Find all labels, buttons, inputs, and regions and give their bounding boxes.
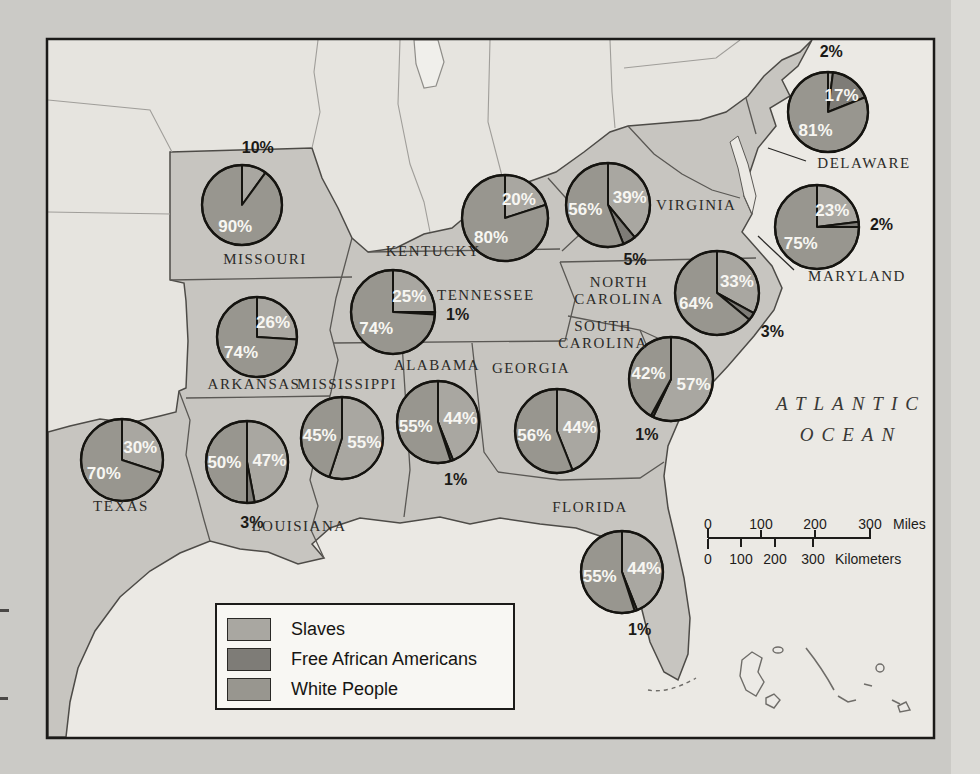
- ocean-label-line: OCEAN: [752, 419, 950, 450]
- scale-miles-0: 0: [688, 516, 728, 532]
- legend: Slaves Free African Americans White Peop…: [215, 603, 515, 710]
- ocean-label-line: ATLANTIC: [752, 388, 950, 419]
- state-label-line: CAROLINA: [557, 291, 681, 308]
- state-label-north-carolina: NORTH CAROLINA: [557, 274, 681, 308]
- pie-label: 17%: [824, 86, 858, 105]
- pie-label: 56%: [517, 426, 551, 445]
- pie-label: 64%: [679, 294, 713, 313]
- pie-label: 1%: [444, 471, 467, 488]
- pie-label: 70%: [87, 464, 121, 483]
- state-label-georgia: GEORGIA: [471, 360, 591, 377]
- pie-arkansas: 26%74%: [217, 297, 297, 377]
- pie-label: 25%: [392, 287, 426, 306]
- state-label-missouri: MISSOURI: [195, 251, 335, 268]
- pie-label: 75%: [784, 234, 818, 253]
- legend-item-white-people: White People: [227, 677, 398, 701]
- legend-label: Slaves: [291, 619, 345, 640]
- pie-label: 2%: [870, 216, 893, 233]
- state-label-virginia: VIRGINIA: [656, 197, 766, 214]
- pie-label: 20%: [502, 190, 536, 209]
- scale-miles-100: 100: [741, 516, 781, 532]
- pie-label: 5%: [623, 251, 646, 268]
- pie-label: 44%: [563, 418, 597, 437]
- state-label-south-carolina: SOUTH CAROLINA: [541, 318, 665, 352]
- scale-km-unit: Kilometers: [835, 551, 901, 567]
- pie-georgia: 44%56%: [515, 389, 599, 473]
- pie-label: 3%: [761, 323, 784, 340]
- pie-label: 1%: [635, 426, 658, 443]
- scale-km-200: 200: [755, 551, 795, 567]
- bahamas-island: [876, 664, 884, 672]
- pie-label: 55%: [583, 567, 617, 586]
- ocean-label: ATLANTIC OCEAN: [752, 388, 950, 450]
- pie-label: 55%: [347, 433, 381, 452]
- state-label-mississippi: MISSISSIPPI: [282, 376, 412, 393]
- state-label-tennessee: TENNESSEE: [437, 287, 547, 304]
- scale-km-300: 300: [793, 551, 833, 567]
- scale-miles-300: 300: [850, 516, 890, 532]
- pie-mississippi: 55%45%: [301, 397, 383, 479]
- state-label-maryland: MARYLAND: [799, 268, 915, 285]
- scale-miles-200: 200: [795, 516, 835, 532]
- pie-label: 74%: [359, 319, 393, 338]
- state-label-line: CAROLINA: [541, 335, 665, 352]
- legend-label: Free African Americans: [291, 649, 477, 670]
- legend-swatch-free-african-americans: [227, 648, 271, 671]
- pie-label: 23%: [815, 201, 849, 220]
- pie-label: 2%: [820, 43, 843, 60]
- scale-miles-unit: Miles: [893, 516, 926, 532]
- pie-label: 55%: [399, 417, 433, 436]
- scale-tick: [740, 539, 742, 547]
- pie-label: 26%: [256, 313, 290, 332]
- pie-label: 90%: [218, 217, 252, 236]
- bahamas-island: [773, 647, 783, 653]
- state-label-delaware: DELAWARE: [806, 155, 922, 172]
- scale-tick: [774, 539, 776, 547]
- pie-label: 44%: [627, 559, 661, 578]
- state-label-louisiana: LOUISIANA: [239, 518, 359, 535]
- scale-tick: [812, 539, 814, 547]
- legend-swatch-white-people: [227, 678, 271, 701]
- pie-label: 1%: [628, 621, 651, 638]
- legend-swatch-slaves: [227, 618, 271, 641]
- state-label-line: SOUTH: [541, 318, 665, 335]
- pie-label: 81%: [799, 121, 833, 140]
- pie-texas: 30%70%: [81, 419, 163, 501]
- state-label-florida: FLORIDA: [530, 499, 650, 516]
- pie-label: 30%: [123, 438, 157, 457]
- pie-label: 33%: [720, 272, 754, 291]
- scale-tick: [707, 539, 709, 549]
- legend-label: White People: [291, 679, 398, 700]
- pie-label: 57%: [676, 375, 710, 394]
- pie-label: 56%: [568, 200, 602, 219]
- pie-label: 45%: [303, 426, 337, 445]
- pie-label: 47%: [252, 451, 286, 470]
- pie-label: 39%: [613, 188, 647, 207]
- pie-label: 42%: [632, 364, 666, 383]
- pie-label: 10%: [242, 139, 274, 156]
- pie-label: 74%: [224, 343, 258, 362]
- state-label-texas: TEXAS: [61, 498, 181, 515]
- state-label-kentucky: KENTUCKY: [363, 243, 503, 260]
- scale-bar-line: [708, 537, 871, 539]
- legend-item-free-african-americans: Free African Americans: [227, 647, 477, 671]
- pie-label: 50%: [207, 453, 241, 472]
- state-label-line: NORTH: [557, 274, 681, 291]
- legend-item-slaves: Slaves: [227, 617, 345, 641]
- population-map-figure: 10%90%26%74%30%70%47%3%50%55%45%44%1%55%…: [0, 0, 980, 774]
- pie-label: 1%: [446, 306, 469, 323]
- pie-label: 44%: [443, 409, 477, 428]
